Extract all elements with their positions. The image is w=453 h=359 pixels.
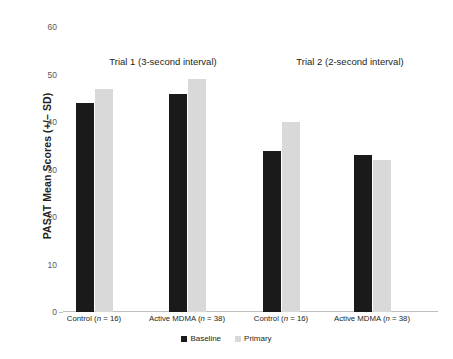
y-tick-label-20: 20 [33, 213, 57, 222]
bar-primary-1 [188, 79, 206, 312]
chart-legend: BaselinePrimary [0, 334, 453, 343]
category-label-3: Active MDMA (n = 38) [317, 314, 427, 323]
bar-baseline-1 [169, 94, 187, 313]
legend-label: Primary [244, 334, 272, 343]
y-tick-label-50: 50 [33, 71, 57, 80]
legend-label: Baseline [190, 334, 221, 343]
bar-baseline-0 [76, 103, 94, 312]
legend-swatch-icon-primary [235, 336, 241, 342]
bar-baseline-3 [354, 155, 372, 312]
trial-title-2: Trial 2 (2-second interval) [260, 56, 440, 67]
legend-item-baseline: Baseline [181, 334, 221, 343]
y-tick-label-60: 60 [33, 23, 57, 32]
legend-item-primary: Primary [235, 334, 272, 343]
y-tick-label-30: 30 [33, 166, 57, 175]
bar-primary-2 [282, 122, 300, 312]
bar-baseline-2 [263, 151, 281, 313]
bar-primary-3 [373, 160, 391, 312]
y-tick-label-40: 40 [33, 118, 57, 127]
y-tick-mark-0 [59, 312, 63, 313]
pasat-bar-chart: PASAT Mean Scores (+/– SD) 0102030405060… [0, 0, 453, 359]
bar-primary-0 [95, 89, 113, 312]
y-tick-label-10: 10 [33, 261, 57, 270]
legend-swatch-icon-baseline [181, 336, 187, 342]
trial-title-1: Trial 1 (3-second interval) [73, 56, 253, 67]
